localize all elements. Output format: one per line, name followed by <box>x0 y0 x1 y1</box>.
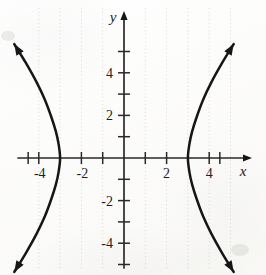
x-tick-label: 2 <box>163 166 170 181</box>
y-axis-label: y <box>108 9 117 25</box>
y-tick-label: -2 <box>101 194 113 209</box>
curve-arrowhead <box>14 260 23 272</box>
curve-arrowhead <box>224 260 233 272</box>
y-tick-label: -4 <box>101 236 113 251</box>
scan-smudge <box>231 244 249 256</box>
y-tick-label: 2 <box>106 108 113 123</box>
y-tick-label: 4 <box>106 66 113 81</box>
x-tick-label: -2 <box>77 166 89 181</box>
plot-canvas: x y -4-224 42-2-4 <box>0 0 266 275</box>
hyperbola-figure: x y -4-224 42-2-4 <box>0 0 266 275</box>
x-axis-arrowhead <box>243 154 252 161</box>
x-tick-label: 4 <box>206 166 213 181</box>
gridlines-group <box>39 8 231 270</box>
x-tick-label: -4 <box>34 166 46 181</box>
curve-arrowhead <box>14 44 23 56</box>
scan-smudge <box>1 31 15 41</box>
curve-arrowhead <box>224 44 233 56</box>
y-axis-arrowhead <box>120 11 127 20</box>
x-axis-label: x <box>239 163 247 179</box>
